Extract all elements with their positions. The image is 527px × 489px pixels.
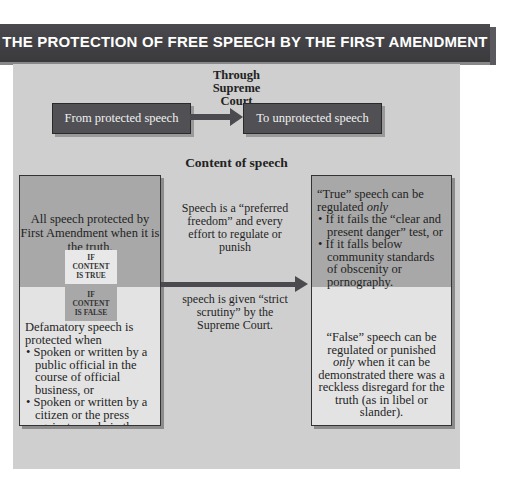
badge-if-true: IF CONTENT IS TRUE <box>65 250 117 284</box>
preferred-freedom-text: Speech is a “preferred freedom” and ever… <box>161 202 309 254</box>
arrow-head-icon <box>230 108 243 126</box>
right-column: “True” speech can be regulated only • If… <box>311 175 452 426</box>
title-bar: THE PROTECTION OF FREE SPEECH BY THE FIR… <box>0 24 490 62</box>
strict-scrutiny-text: speech is given “strict scrutiny” by the… <box>161 293 309 332</box>
arrow-right-icon <box>161 282 301 287</box>
true-speech-text: All speech protected by First Amendment … <box>20 212 160 254</box>
defamatory-speech-text: Defamatory speech is protected when • Sp… <box>25 321 156 426</box>
middle-column: Speech is a “preferred freedom” and ever… <box>161 175 309 424</box>
diagram-title: THE PROTECTION OF FREE SPEECH BY THE FIR… <box>0 33 490 50</box>
arrow-head-icon <box>295 276 308 292</box>
badge-if-false: IF CONTENT IS FALSE <box>65 287 117 321</box>
from-protected-box: From protected speech <box>52 103 191 134</box>
bullet-item: • Spoken or written by a citizen or the … <box>25 396 156 426</box>
bullet-item: • If it fails the “clear and present dan… <box>317 213 447 238</box>
bullet-item: • Spoken or written by a public official… <box>25 346 156 396</box>
true-speech-regulation-text: “True” speech can be regulated only • If… <box>317 188 447 288</box>
bullet-item: • If it falls below community standards … <box>317 238 447 288</box>
arrow-right-icon <box>190 114 235 120</box>
to-unprotected-box: To unprotected speech <box>243 103 382 134</box>
title-bar-edge <box>490 27 496 65</box>
diagram-panel: Through Supreme Court From protected spe… <box>13 64 460 469</box>
false-speech-regulation-text: “False” speech can be regulated or punis… <box>316 331 447 419</box>
content-of-speech-heading: Content of speech <box>13 155 460 171</box>
left-column: All speech protected by First Amendment … <box>19 175 161 426</box>
